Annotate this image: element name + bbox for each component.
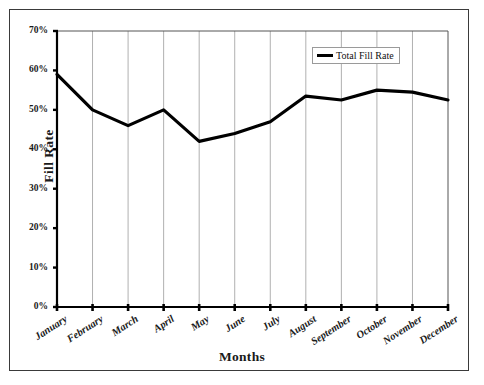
legend-swatch-total-fill-rate: [317, 54, 333, 57]
y-tick-label: 20%: [0, 222, 48, 232]
chart-figure: Fill Rate Months 0%10%20%30%40%50%60%70%…: [0, 0, 484, 385]
y-tick-label: 50%: [0, 104, 48, 114]
y-tick-label: 70%: [0, 25, 48, 35]
y-tick-label: 0%: [0, 301, 48, 311]
y-tick-label: 30%: [0, 183, 48, 193]
y-axis-title: Fill Rate: [41, 96, 57, 216]
y-tick-label: 60%: [0, 64, 48, 74]
y-tick-label: 10%: [0, 262, 48, 272]
chart-legend: Total Fill Rate: [312, 47, 400, 64]
y-tick-label: 40%: [0, 143, 48, 153]
legend-label-total-fill-rate: Total Fill Rate: [336, 51, 394, 61]
